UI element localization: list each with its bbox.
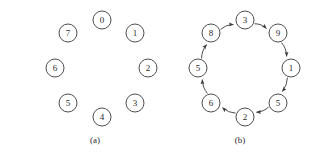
graph-node[interactable]: 5 (269, 94, 287, 112)
graph-node[interactable]: 9 (269, 24, 287, 42)
node-label: 5 (196, 63, 201, 73)
node-label: 9 (276, 28, 281, 38)
node-label: 3 (133, 98, 138, 108)
directed-edge (221, 24, 234, 29)
graph-node[interactable]: 6 (46, 59, 64, 77)
directed-edge (202, 80, 207, 94)
node-label: 1 (133, 28, 138, 38)
directed-edge (222, 108, 235, 113)
graph-node[interactable]: 5 (189, 59, 207, 77)
graph-node[interactable]: 3 (126, 94, 144, 112)
graph-node[interactable]: 8 (202, 24, 220, 42)
graph-node[interactable]: 1 (126, 24, 144, 42)
node-label: 6 (209, 98, 214, 108)
node-label: 6 (53, 63, 58, 73)
directed-edge (254, 24, 266, 29)
graph-node[interactable]: 2 (139, 59, 157, 77)
node-label: 3 (243, 15, 248, 25)
node-label: 1 (289, 63, 294, 73)
directed-edge (256, 107, 268, 112)
panel-caption: (b) (235, 135, 246, 145)
graph-node[interactable]: 2 (236, 108, 254, 126)
node-label: 5 (66, 98, 71, 108)
panel-caption: (a) (90, 135, 100, 145)
figure-canvas: 0123456739152658 (a)(b) (0, 0, 318, 159)
node-label: 2 (146, 63, 151, 73)
graph-node[interactable]: 0 (93, 11, 111, 29)
nodes-layer: 0123456739152658 (46, 11, 300, 126)
node-label: 0 (100, 15, 105, 25)
node-label: 5 (276, 98, 281, 108)
captions-layer: (a)(b) (90, 135, 245, 145)
node-label: 2 (243, 112, 248, 122)
figure-container: 0123456739152658 (a)(b) (0, 0, 318, 159)
graph-node[interactable]: 7 (59, 24, 77, 42)
graph-node[interactable]: 3 (236, 11, 254, 29)
node-label: 4 (100, 112, 105, 122)
directed-edge (202, 45, 207, 59)
node-label: 8 (209, 28, 214, 38)
graph-node[interactable]: 6 (202, 94, 220, 112)
graph-node[interactable]: 5 (59, 94, 77, 112)
directed-edge (282, 43, 287, 57)
directed-edge (282, 78, 287, 92)
graph-node[interactable]: 4 (93, 108, 111, 126)
graph-node[interactable]: 1 (282, 59, 300, 77)
node-label: 7 (66, 28, 71, 38)
